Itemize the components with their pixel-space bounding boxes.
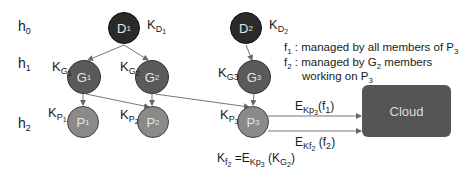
- key-p1: KP1: [48, 106, 67, 123]
- level-label-h1: h1: [18, 56, 31, 73]
- key-d2: KD2: [269, 18, 288, 35]
- cloud-box: Cloud: [362, 85, 451, 137]
- node-g1: G1: [67, 60, 101, 94]
- key-p2: KP2: [120, 108, 139, 125]
- key-formula: Kf2 =EKp3 (KG2): [217, 152, 295, 168]
- node-d2: D2: [230, 12, 262, 44]
- edge-g3-p3: [253, 94, 254, 105]
- node-p2: P2: [137, 106, 169, 138]
- node-p3: P3: [237, 106, 269, 138]
- key-p3: KP3: [220, 108, 239, 125]
- key-g1: KG1: [52, 60, 72, 77]
- edge-d1-g2: [124, 45, 148, 60]
- edge-d2-g3: [246, 45, 252, 60]
- note-f2-continued: working on P3: [302, 69, 373, 88]
- key-d1: KD1: [147, 18, 166, 35]
- level-label-h0: h0: [18, 19, 31, 36]
- edge-label-f2: EKf2 (f2): [295, 136, 335, 152]
- level-label-h2: h2: [18, 116, 31, 133]
- node-g3: G3: [237, 60, 271, 94]
- node-p1: P1: [67, 106, 99, 138]
- key-g2: KG2: [120, 60, 140, 77]
- edge-g1-p2: [86, 94, 149, 107]
- node-d1: D1: [108, 12, 140, 44]
- edge-label-f1: EKp3(f1): [295, 100, 334, 116]
- edge-g2-p3: [155, 94, 249, 107]
- edge-d1-g1: [88, 45, 124, 60]
- key-g3: KG3: [218, 66, 239, 82]
- node-g2: G2: [135, 60, 169, 94]
